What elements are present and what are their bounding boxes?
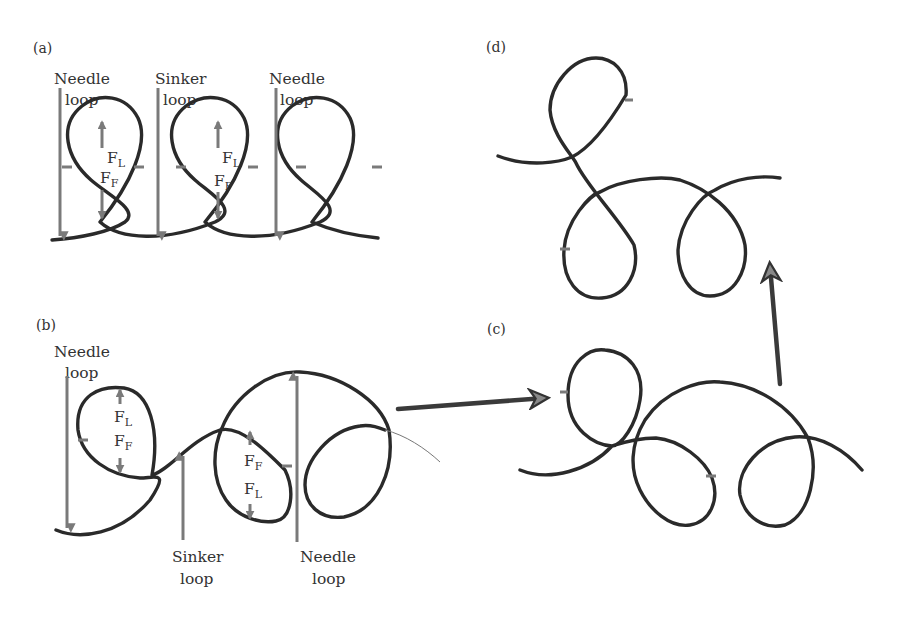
panel-a-force-fl-1: FL bbox=[107, 149, 126, 170]
panel-d-yarn bbox=[498, 58, 780, 298]
panel-a-needle-loop-label-2: Needle bbox=[269, 70, 325, 88]
panel-b-needle-loop-label-2b: loop bbox=[312, 570, 346, 588]
panel-b: (b) Needle loop Sinker loop Needle loop … bbox=[36, 317, 440, 588]
panel-b-force-ff-1: FF bbox=[114, 432, 133, 453]
panel-b-label: (b) bbox=[36, 317, 56, 333]
panel-c: (c) bbox=[487, 321, 862, 526]
panel-d-label: (d) bbox=[486, 39, 506, 55]
panel-a-needle-loop-label-1: Needle bbox=[54, 70, 110, 88]
panel-a: (a) Needle loop Sinker loop Needle loop … bbox=[33, 40, 382, 240]
panel-a-force-ff-2: FF bbox=[214, 172, 233, 193]
panel-a-sinker-loop-label: Sinker bbox=[155, 70, 207, 88]
panel-b-thin-guide bbox=[385, 430, 440, 462]
panel-b-force-ff-2: FF bbox=[244, 452, 263, 473]
panel-b-needle-loop-label-1b: loop bbox=[65, 364, 99, 382]
panel-b-needle-loop-label-1: Needle bbox=[54, 343, 110, 361]
panel-b-sinker-loop-label: Sinker bbox=[172, 548, 224, 566]
knit-loop-diagram: (a) Needle loop Sinker loop Needle loop … bbox=[0, 0, 900, 617]
transition-arrow-c-to-d bbox=[770, 266, 780, 384]
panel-d: (d) bbox=[486, 39, 780, 298]
transition-arrow-b-to-c bbox=[398, 398, 545, 409]
panel-b-needle-loop-label-2: Needle bbox=[300, 548, 356, 566]
panel-a-force-ff-1: FF bbox=[100, 169, 119, 190]
panel-a-sinker-loop-label-b: loop bbox=[163, 91, 197, 109]
panel-b-yarn bbox=[56, 372, 390, 535]
panel-b-force-fl-1: FL bbox=[114, 408, 133, 429]
panel-a-force-fl-2: FL bbox=[222, 149, 241, 170]
panel-b-sinker-loop-label-b: loop bbox=[180, 570, 214, 588]
panel-c-label: (c) bbox=[487, 321, 506, 337]
panel-b-force-fl-2: FL bbox=[244, 480, 263, 501]
panel-a-label: (a) bbox=[33, 40, 52, 56]
panel-c-yarn bbox=[520, 350, 862, 526]
